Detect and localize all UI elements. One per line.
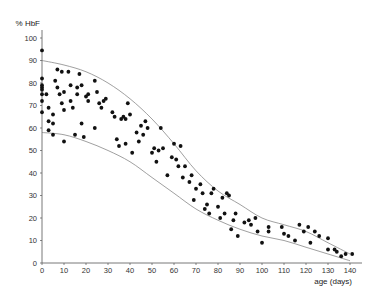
data-point [166,173,170,177]
data-point [62,140,66,144]
y-axis: 0102030405060708090100 % HbF [16,19,42,268]
data-point [60,101,64,105]
data-point [317,234,321,238]
y-tick-label: 10 [29,236,37,245]
data-point [51,122,55,126]
data-point [40,88,44,92]
data-point [350,252,354,256]
data-point [51,133,55,137]
x-tick-label: 140 [344,266,357,275]
data-point [115,137,119,141]
data-point [80,122,84,126]
y-tick-label: 50 [29,146,37,155]
data-point [86,99,90,103]
data-point [302,230,306,234]
data-point [170,155,174,159]
data-point [51,113,55,117]
data-point [339,254,343,258]
y-tick-label: 70 [29,101,37,110]
data-point [236,234,240,238]
data-point [75,86,79,90]
data-point [232,218,236,222]
data-point [40,92,44,96]
lower-envelope-curve [42,133,350,261]
data-points [40,48,354,258]
data-point [313,230,317,234]
y-axis-label: % HbF [16,19,41,28]
data-point [93,126,97,130]
data-point [152,146,156,150]
data-point [306,225,310,229]
y-tick-label: 20 [29,214,37,223]
x-tick-label: 100 [256,266,269,275]
x-tick-label: 60 [170,266,178,275]
data-point [309,241,313,245]
data-point [111,110,115,114]
data-point [146,126,150,130]
data-point [53,79,57,83]
data-point [40,110,44,114]
data-point [82,135,86,139]
data-point [212,187,216,191]
data-point [247,218,251,222]
data-point [218,216,222,220]
data-point [201,191,205,195]
data-point [93,79,97,83]
x-tick-label: 80 [214,266,222,275]
data-point [58,92,62,96]
data-point [159,126,163,130]
data-point [141,133,145,137]
data-point [194,187,198,191]
data-point [40,99,44,103]
data-point [104,97,108,101]
data-point [326,248,330,252]
data-point [267,230,271,234]
y-tick-label: 0 [33,259,37,268]
data-point [298,223,302,227]
data-point [62,90,66,94]
data-point [174,158,178,162]
data-point [179,144,183,148]
data-point [243,221,247,225]
data-point [100,106,104,110]
data-point [124,117,128,121]
x-tick-label: 20 [82,266,90,275]
x-axis: 0102030405060708090100110120130140 age (… [40,263,362,286]
data-point [126,101,130,105]
data-point [95,90,99,94]
data-point [60,70,64,74]
data-point [80,83,84,87]
data-point [78,72,82,76]
data-point [199,182,203,186]
data-point [56,68,60,72]
x-tick-label: 120 [300,266,313,275]
data-point [183,164,187,168]
x-tick-label: 30 [104,266,112,275]
data-point [130,151,134,155]
data-point [155,160,159,164]
data-point [47,106,51,110]
data-point [117,144,121,148]
data-point [69,99,73,103]
x-tick-label: 0 [40,266,44,275]
y-ticks: 0102030405060708090100 [24,34,42,268]
data-point [47,128,51,132]
data-point [139,124,143,128]
data-point [157,149,161,153]
data-point [205,203,209,207]
y-tick-label: 40 [29,169,37,178]
data-point [75,92,79,96]
data-point [161,146,165,150]
data-point [234,212,238,216]
data-point [124,142,128,146]
data-point [188,180,192,184]
hbf-scatter-chart: 0102030405060708090100 % HbF 01020304050… [0,0,375,294]
y-tick-label: 90 [29,56,37,65]
data-point [69,83,73,87]
y-tick-label: 30 [29,191,37,200]
data-point [97,101,101,105]
data-point [260,241,264,245]
data-point [181,176,185,180]
x-tick-label: 10 [60,266,68,275]
data-point [221,196,225,200]
